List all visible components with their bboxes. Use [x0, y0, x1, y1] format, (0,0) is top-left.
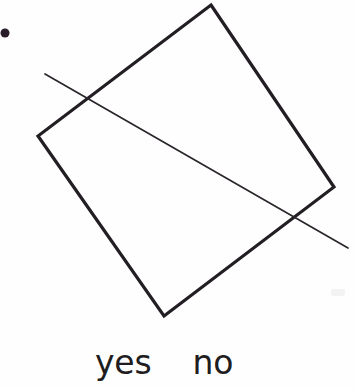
figure-page: yes no	[0, 0, 356, 389]
scan-artifact	[331, 289, 345, 296]
tilted-square-shape	[38, 5, 334, 316]
answer-spacer	[151, 344, 192, 345]
answer-choices: yes no	[0, 344, 356, 389]
geometric-figure	[0, 0, 356, 389]
answer-option-no[interactable]: no	[192, 344, 233, 382]
answer-option-yes[interactable]: yes	[95, 344, 151, 382]
diagonal-line-shape	[45, 74, 348, 248]
item-bullet-icon	[1, 29, 10, 38]
